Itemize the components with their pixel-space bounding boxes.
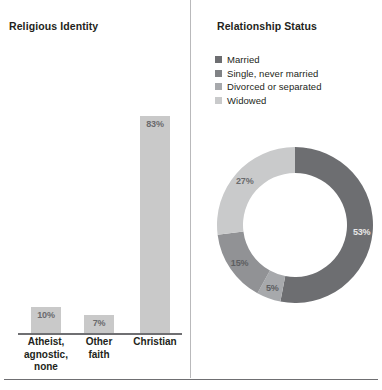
donut-chart-plot-area: 53%5%15%27%: [215, 145, 375, 305]
donut-chart-title: Relationship Status: [217, 20, 317, 32]
legend-label: Married: [227, 54, 260, 65]
bar-rect: [140, 116, 170, 333]
legend-swatch-icon: [215, 83, 222, 90]
donut-chart-legend: MarriedSingle, never marriedDivorced or …: [215, 53, 322, 107]
donut-slice-label: 53%: [353, 227, 371, 237]
bar-chart-axis-line: [18, 333, 182, 335]
bar-value-label: 7%: [84, 318, 114, 328]
bar-column: 10%: [31, 307, 61, 333]
bar-value-label: 83%: [140, 119, 170, 129]
footer-divider: [4, 379, 378, 380]
bar-category-label: Christian: [120, 336, 190, 349]
legend-item: Married: [215, 53, 322, 67]
legend-label: Widowed: [227, 95, 266, 106]
donut-slice: [217, 147, 295, 235]
donut-chart-svg: 53%5%15%27%: [215, 145, 375, 305]
legend-swatch-icon: [215, 70, 222, 77]
legend-item: Divorced or separated: [215, 80, 322, 94]
bar-value-label: 10%: [31, 310, 61, 320]
bar-chart-plot-area: 10%7%83%: [0, 32, 190, 335]
legend-label: Divorced or separated: [227, 81, 322, 92]
donut-slice-label: 27%: [236, 176, 254, 186]
chart-figure: Religious Identity 10%7%83% Atheist,agno…: [0, 0, 382, 390]
bar-chart-title: Religious Identity: [9, 20, 98, 32]
bar-column: 7%: [84, 315, 114, 333]
bar-chart-x-axis-labels: Atheist,agnostic,noneOtherfaithChristian: [0, 336, 190, 380]
legend-label: Single, never married: [227, 68, 318, 79]
footer-note: [5, 381, 255, 390]
donut-slice-label: 15%: [231, 258, 249, 268]
bar-column: 83%: [140, 116, 170, 333]
donut-slice-label: 5%: [266, 283, 279, 293]
legend-swatch-icon: [215, 97, 222, 104]
legend-item: Widowed: [215, 94, 322, 108]
panel-divider: [190, 0, 191, 378]
legend-swatch-icon: [215, 56, 222, 63]
legend-item: Single, never married: [215, 67, 322, 81]
